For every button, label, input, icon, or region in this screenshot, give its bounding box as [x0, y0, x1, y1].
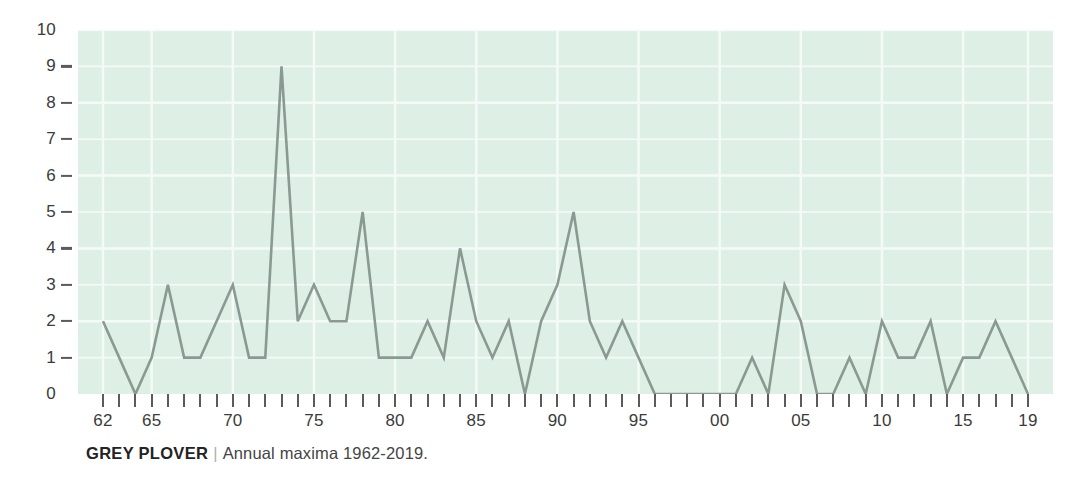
x-tick-label: 95 — [629, 411, 648, 431]
x-tick-mark — [832, 394, 834, 407]
y-tick-label: 3 — [46, 275, 56, 295]
y-tick-label: 6 — [46, 166, 56, 186]
plot-area — [78, 30, 1053, 394]
y-tick-label: 5 — [46, 202, 56, 222]
x-tick-mark — [751, 394, 753, 407]
x-tick-mark — [329, 394, 331, 407]
x-tick-label: 00 — [710, 411, 729, 431]
x-tick-mark — [313, 394, 315, 407]
x-tick-label: 75 — [304, 411, 323, 431]
x-tick-mark — [427, 394, 429, 407]
x-tick-mark — [167, 394, 169, 407]
x-tick-label: 90 — [548, 411, 567, 431]
y-tick-mark — [61, 284, 72, 286]
x-tick-mark — [475, 394, 477, 407]
x-tick-mark — [735, 394, 737, 407]
y-tick-mark — [61, 175, 72, 177]
y-tick-mark — [61, 247, 72, 249]
x-tick-mark — [816, 394, 818, 407]
x-tick-mark — [962, 394, 964, 407]
caption-description: Annual maxima 1962-2019. — [223, 444, 428, 462]
y-tick-mark — [61, 102, 72, 104]
x-tick-mark — [443, 394, 445, 407]
x-tick-mark — [102, 394, 104, 407]
x-tick-mark — [297, 394, 299, 407]
x-tick-mark — [865, 394, 867, 407]
x-tick-mark — [1011, 394, 1013, 407]
x-tick-mark — [345, 394, 347, 407]
y-tick-label: 4 — [46, 238, 56, 258]
x-tick-mark — [281, 394, 283, 407]
x-tick-mark — [216, 394, 218, 407]
x-tick-mark — [491, 394, 493, 407]
x-tick-mark — [199, 394, 201, 407]
x-tick-mark — [686, 394, 688, 407]
x-tick-mark — [654, 394, 656, 407]
y-tick-mark — [61, 357, 72, 359]
y-tick-mark — [61, 320, 72, 322]
x-tick-label: 19 — [1018, 411, 1037, 431]
x-tick-mark — [573, 394, 575, 407]
x-tick-mark — [670, 394, 672, 407]
y-tick-mark — [61, 138, 72, 140]
y-tick-label: 9 — [46, 56, 56, 76]
x-tick-mark — [264, 394, 266, 407]
x-tick-mark — [978, 394, 980, 407]
x-tick-mark — [459, 394, 461, 407]
y-tick-label: 2 — [46, 311, 56, 331]
x-tick-mark — [134, 394, 136, 407]
x-tick-mark — [946, 394, 948, 407]
x-tick-label: 10 — [872, 411, 891, 431]
x-tick-mark — [183, 394, 185, 407]
chart-figure: 012345678910 62657075808590950005101519 … — [0, 0, 1084, 488]
x-tick-mark — [702, 394, 704, 407]
y-tick-label: 0 — [46, 384, 56, 404]
y-tick-mark — [61, 65, 72, 67]
y-axis: 012345678910 — [0, 0, 78, 420]
x-tick-mark — [621, 394, 623, 407]
x-tick-mark — [540, 394, 542, 407]
y-tick-label: 1 — [46, 348, 56, 368]
x-tick-mark — [232, 394, 234, 407]
x-tick-mark — [556, 394, 558, 407]
x-tick-mark — [394, 394, 396, 407]
y-tick-label: 10 — [37, 20, 56, 40]
x-tick-mark — [848, 394, 850, 407]
x-tick-mark — [508, 394, 510, 407]
x-tick-label: 80 — [385, 411, 404, 431]
x-tick-label: 65 — [142, 411, 161, 431]
y-tick-label: 8 — [46, 93, 56, 113]
data-series-line — [103, 66, 1028, 394]
x-tick-mark — [248, 394, 250, 407]
x-tick-label: 70 — [223, 411, 242, 431]
x-tick-mark — [589, 394, 591, 407]
x-tick-label: 15 — [953, 411, 972, 431]
x-tick-mark — [719, 394, 721, 407]
x-tick-mark — [930, 394, 932, 407]
y-tick-mark — [61, 211, 72, 213]
x-tick-mark — [605, 394, 607, 407]
x-tick-label: 05 — [791, 411, 810, 431]
chart-caption: GREY PLOVER|Annual maxima 1962-2019. — [86, 444, 428, 463]
x-tick-mark — [638, 394, 640, 407]
x-tick-label: 85 — [467, 411, 486, 431]
x-axis-labels: 62657075808590950005101519 — [78, 411, 1053, 437]
x-tick-mark — [410, 394, 412, 407]
x-tick-mark — [897, 394, 899, 407]
gridlines — [78, 30, 1053, 394]
x-tick-mark — [118, 394, 120, 407]
x-tick-mark — [378, 394, 380, 407]
x-tick-mark — [151, 394, 153, 407]
y-tick-label: 7 — [46, 129, 56, 149]
x-tick-mark — [767, 394, 769, 407]
caption-separator: | — [208, 444, 222, 462]
x-tick-mark — [524, 394, 526, 407]
line-chart-svg — [78, 30, 1053, 394]
x-tick-mark — [1027, 394, 1029, 407]
x-tick-label: 62 — [93, 411, 112, 431]
x-tick-mark — [881, 394, 883, 407]
caption-species: GREY PLOVER — [86, 444, 208, 462]
x-tick-mark — [800, 394, 802, 407]
x-tick-mark — [913, 394, 915, 407]
x-tick-mark — [362, 394, 364, 407]
